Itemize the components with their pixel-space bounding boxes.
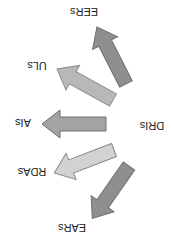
- arrow-ais-shape: [42, 110, 106, 138]
- dri-diagram: EERs ULs AIs RDAs EARs DRIs: [0, 0, 171, 237]
- arrow-rdas-shape: [49, 137, 119, 186]
- arrow-eers: [84, 21, 138, 91]
- label-rdas: RDAs: [17, 166, 46, 178]
- arrow-ears: [81, 158, 141, 226]
- arrow-eers-shape: [84, 21, 138, 91]
- arrow-ais: [42, 110, 106, 138]
- label-ais: AIs: [15, 117, 31, 129]
- label-ears: EARs: [57, 222, 86, 234]
- label-uls: ULs: [27, 60, 47, 72]
- label-dris: DRIs: [139, 120, 164, 132]
- arrow-ears-shape: [81, 158, 141, 226]
- label-eers: EERs: [69, 6, 98, 18]
- arrow-rdas: [49, 137, 119, 186]
